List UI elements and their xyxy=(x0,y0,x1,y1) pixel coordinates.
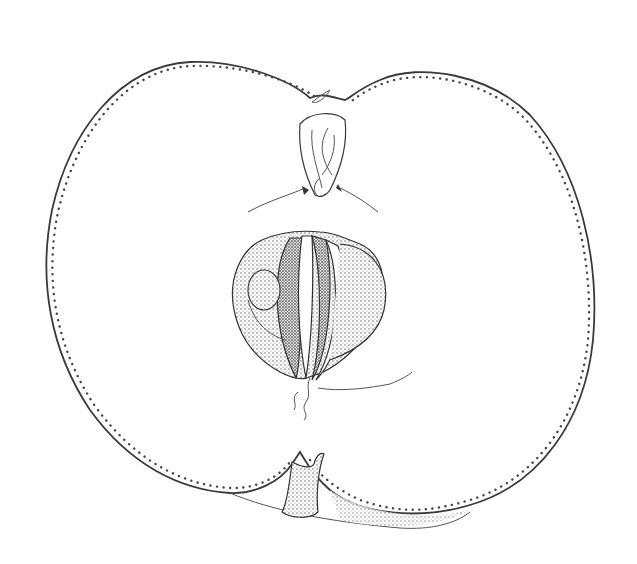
calyx xyxy=(248,90,378,212)
illustration-canvas xyxy=(0,0,637,564)
core xyxy=(232,231,412,420)
apple-section-drawing xyxy=(0,0,637,564)
